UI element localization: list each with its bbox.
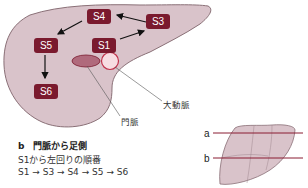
section-label-b: b [204, 153, 210, 164]
portal-vein-shape [72, 55, 100, 67]
segment-label-s5: S5 [40, 40, 53, 51]
aorta-leader-line [115, 67, 162, 101]
caption-sequence: S1 → S3 → S4 → S5 → S6 [18, 167, 128, 177]
segment-label-s6: S6 [40, 86, 53, 97]
caption-description: S1から左回りの順番 [18, 153, 101, 166]
segment-label-s4: S4 [93, 11, 106, 22]
aorta-label: 大動脈 [163, 98, 190, 110]
portal-vein-label: 門脈 [121, 115, 139, 127]
inset-liver [220, 125, 295, 185]
section-label-a: a [204, 128, 210, 139]
caption-title: b 門脈から足側 [18, 139, 87, 152]
segment-label-s1: S1 [98, 40, 111, 51]
segment-label-s3: S3 [152, 16, 165, 27]
aorta-shape [102, 53, 119, 70]
